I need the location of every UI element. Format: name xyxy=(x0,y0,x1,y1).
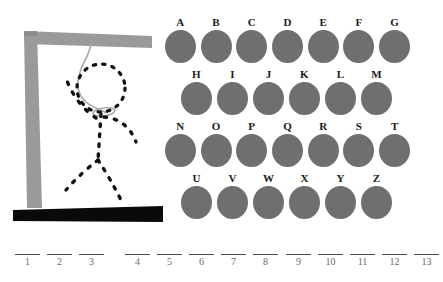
letter-key-disc[interactable] xyxy=(253,186,284,219)
letter-key-s[interactable]: S xyxy=(342,120,377,167)
letter-key-disc[interactable] xyxy=(181,186,212,219)
letter-key-x[interactable]: X xyxy=(287,172,322,219)
answer-blank-index: 1 xyxy=(25,256,30,268)
answer-blank-4: 4 xyxy=(124,243,151,268)
letter-key-disc[interactable] xyxy=(181,82,212,115)
letter-key-l[interactable]: L xyxy=(323,68,358,115)
answer-blank-index: 3 xyxy=(89,256,94,268)
letter-key-disc[interactable] xyxy=(272,134,303,167)
letter-key-i[interactable]: I xyxy=(215,68,250,115)
letter-key-label: S xyxy=(356,120,362,133)
letter-key-disc[interactable] xyxy=(289,186,320,219)
answer-blank-6: 6 xyxy=(188,243,215,268)
letter-key-o[interactable]: O xyxy=(199,120,234,167)
letter-key-disc[interactable] xyxy=(201,134,232,167)
letter-key-label: D xyxy=(283,16,291,29)
answer-word-group-1: 123 xyxy=(14,243,110,268)
letter-key-label: U xyxy=(192,172,200,185)
answer-blank-rule xyxy=(157,254,182,255)
letter-key-disc[interactable] xyxy=(253,82,284,115)
gallows-drawing-area xyxy=(0,0,170,232)
letter-key-label: I xyxy=(230,68,234,81)
letter-key-label: W xyxy=(263,172,274,185)
figure-right-arm-icon xyxy=(104,117,136,142)
answer-blank-index: 4 xyxy=(135,256,140,268)
letter-key-disc[interactable] xyxy=(308,134,339,167)
letter-key-disc[interactable] xyxy=(165,30,196,63)
letter-key-disc[interactable] xyxy=(379,134,410,167)
letter-key-k[interactable]: K xyxy=(287,68,322,115)
letter-key-disc[interactable] xyxy=(165,134,196,167)
answer-blank-rule xyxy=(286,254,311,255)
letter-key-disc[interactable] xyxy=(343,30,374,63)
figure-left-arm-icon xyxy=(66,78,96,118)
letter-key-g[interactable]: G xyxy=(377,16,412,63)
letter-key-label: C xyxy=(248,16,256,29)
answer-blank-7: 7 xyxy=(220,243,247,268)
letter-key-w[interactable]: W xyxy=(251,172,286,219)
answer-blank-12: 12 xyxy=(381,243,408,268)
letter-key-label: B xyxy=(212,16,220,29)
answer-blank-index: 12 xyxy=(390,256,400,268)
letter-key-a[interactable]: A xyxy=(163,16,198,63)
letter-key-disc[interactable] xyxy=(379,30,410,63)
letter-key-y[interactable]: Y xyxy=(323,172,358,219)
letter-key-label: G xyxy=(390,16,399,29)
answer-blank-index: 5 xyxy=(167,256,172,268)
letter-key-r[interactable]: R xyxy=(306,120,341,167)
figure-right-leg-icon xyxy=(98,160,122,202)
letter-key-m[interactable]: M xyxy=(359,68,394,115)
answer-blank-10: 10 xyxy=(317,243,344,268)
letter-key-label: P xyxy=(248,120,255,133)
letter-key-disc[interactable] xyxy=(325,82,356,115)
letter-key-label: F xyxy=(355,16,362,29)
letter-key-label: X xyxy=(300,172,308,185)
letter-key-label: M xyxy=(371,68,382,81)
letter-key-label: L xyxy=(337,68,345,81)
letter-key-p[interactable]: P xyxy=(234,120,269,167)
letter-key-disc[interactable] xyxy=(201,30,232,63)
letter-key-disc[interactable] xyxy=(361,186,392,219)
answer-blank-11: 11 xyxy=(349,243,376,268)
answer-blank-9: 9 xyxy=(285,243,312,268)
answer-blank-rule xyxy=(382,254,407,255)
answer-blank-index: 11 xyxy=(358,256,368,268)
letter-key-disc[interactable] xyxy=(343,134,374,167)
letter-key-disc[interactable] xyxy=(236,134,267,167)
letter-key-j[interactable]: J xyxy=(251,68,286,115)
letter-key-label: O xyxy=(212,120,221,133)
letter-key-disc[interactable] xyxy=(217,186,248,219)
letter-key-label: A xyxy=(176,16,184,29)
answer-blank-rule xyxy=(221,254,246,255)
letter-key-e[interactable]: E xyxy=(306,16,341,63)
letter-key-n[interactable]: N xyxy=(163,120,198,167)
letter-key-h[interactable]: H xyxy=(179,68,214,115)
letter-key-disc[interactable] xyxy=(308,30,339,63)
letter-key-c[interactable]: C xyxy=(234,16,269,63)
answer-blank-index: 10 xyxy=(326,256,336,268)
letter-key-t[interactable]: T xyxy=(377,120,412,167)
answer-blank-index: 2 xyxy=(57,256,62,268)
letter-row-4: UVWXYZ xyxy=(163,172,413,224)
letter-key-disc[interactable] xyxy=(217,82,248,115)
answer-word-group-2: 45678 xyxy=(124,243,284,268)
letter-key-label: Q xyxy=(283,120,292,133)
letter-key-disc[interactable] xyxy=(236,30,267,63)
letter-key-f[interactable]: F xyxy=(342,16,377,63)
letter-key-v[interactable]: V xyxy=(215,172,250,219)
letter-key-disc[interactable] xyxy=(361,82,392,115)
letter-key-q[interactable]: Q xyxy=(270,120,305,167)
letter-key-u[interactable]: U xyxy=(179,172,214,219)
letter-row-2: HIJKLM xyxy=(163,68,413,120)
letter-row-3: NOPQRST xyxy=(163,120,413,172)
letter-key-disc[interactable] xyxy=(325,186,356,219)
letter-key-disc[interactable] xyxy=(289,82,320,115)
letter-key-d[interactable]: D xyxy=(270,16,305,63)
letter-key-disc[interactable] xyxy=(272,30,303,63)
letter-key-label: R xyxy=(319,120,327,133)
answer-blank-2: 2 xyxy=(46,243,73,268)
answer-blank-index: 6 xyxy=(199,256,204,268)
letter-key-z[interactable]: Z xyxy=(359,172,394,219)
letter-key-b[interactable]: B xyxy=(199,16,234,63)
